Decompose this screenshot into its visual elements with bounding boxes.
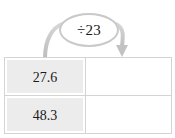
answer-cell-row-1[interactable]	[86, 58, 172, 96]
operation-label: ÷23	[77, 23, 101, 38]
table-row: 27.6	[5, 58, 172, 96]
figure-container: ÷23 27.6 48.3	[0, 0, 175, 138]
operation-bubble: ÷23	[59, 13, 119, 47]
input-value-row-2: 48.3	[33, 108, 58, 123]
arrowhead-icon	[116, 45, 128, 57]
input-value-row-1: 27.6	[33, 70, 58, 85]
value-table: 27.6 48.3	[4, 57, 172, 134]
input-cell-row-2: 48.3	[5, 96, 86, 134]
input-cell-row-1: 27.6	[5, 58, 86, 96]
answer-cell-row-2[interactable]	[86, 96, 172, 134]
table-row: 48.3	[5, 96, 172, 134]
